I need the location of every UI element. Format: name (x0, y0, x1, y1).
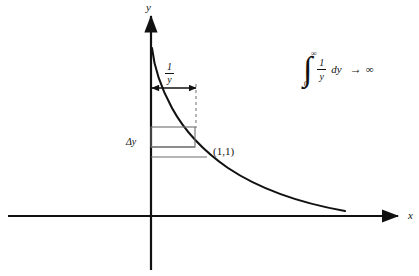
integral-lower-limit: 0 (304, 80, 308, 89)
infinity-result: ∞ (366, 63, 374, 75)
fraction-numerator: 1 (165, 62, 174, 72)
integral-upper-limit: ∞ (311, 49, 317, 58)
y-axis-label: y (146, 2, 151, 13)
fraction-one-over-y: 1 y (165, 62, 174, 85)
figure-canvas: y x Δy (1,1) 1 y ∫ ∞ 0 1 y dy → ∞ (0, 0, 419, 276)
math-figure-svg (0, 0, 419, 276)
integral-sign-group: ∫ ∞ 0 (303, 49, 312, 89)
x-axis-label: x (408, 210, 413, 221)
width-label-one-over-y: 1 y (165, 62, 174, 85)
integral-expression: ∫ ∞ 0 1 y dy → ∞ (303, 49, 374, 89)
right-arrow-icon: → (350, 62, 362, 77)
integrand-fraction-bar (317, 69, 326, 70)
integrand-fraction: 1 y (317, 57, 326, 82)
integrand-numerator: 1 (317, 57, 326, 68)
delta-y-label: Δy (126, 137, 136, 147)
fraction-denominator: y (165, 75, 174, 85)
point-coordinate-label: (1,1) (213, 146, 234, 157)
integrand-denominator: y (317, 71, 326, 82)
strip-rect-upper (151, 127, 195, 147)
differential-dy: dy (331, 63, 341, 75)
